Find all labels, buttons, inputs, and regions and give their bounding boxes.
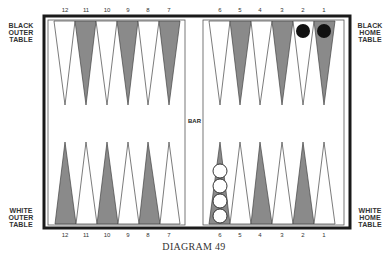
label-line: BLACK [352,22,388,29]
label-line: HOME [352,214,388,221]
point-number: 7 [162,7,176,13]
point-number: 5 [233,7,247,13]
white-checker[interactable] [213,209,227,223]
point-number: 9 [121,7,135,13]
point-number: 7 [162,232,176,238]
white-checker[interactable] [213,164,227,178]
label-line: TABLE [0,221,42,228]
black-checker[interactable] [317,24,331,38]
white-checker[interactable] [213,179,227,193]
bar-label: BAR [186,118,203,124]
point-number: 10 [100,7,114,13]
point-number: 8 [141,232,155,238]
white-outer-table-label: WHITE OUTER TABLE [0,207,42,228]
point-number: 8 [141,7,155,13]
point-number: 3 [275,7,289,13]
point-number: 1 [317,232,331,238]
point-number: 6 [213,232,227,238]
point-number: 12 [58,7,72,13]
point-number: 9 [121,232,135,238]
diagram-caption: DIAGRAM 49 [0,241,388,252]
point-number: 11 [79,7,93,13]
point-number: 6 [213,7,227,13]
point-number: 10 [100,232,114,238]
backgammon-board [0,0,388,257]
point-number: 11 [79,232,93,238]
black-outer-table-label: BLACK OUTER TABLE [0,22,42,43]
label-line: OUTER [0,29,42,36]
point-number: 4 [253,232,267,238]
label-line: TABLE [352,36,388,43]
white-home-table-label: WHITE HOME TABLE [352,207,388,228]
label-line: TABLE [0,36,42,43]
label-line: OUTER [0,214,42,221]
label-line: WHITE [352,207,388,214]
label-line: BLACK [0,22,42,29]
label-line: HOME [352,29,388,36]
black-checker[interactable] [296,24,310,38]
point-number: 1 [317,7,331,13]
white-checker[interactable] [213,194,227,208]
point-number: 5 [233,232,247,238]
point-number: 12 [58,232,72,238]
point-number: 4 [253,7,267,13]
point-number: 3 [275,232,289,238]
point-number: 2 [296,7,310,13]
label-line: WHITE [0,207,42,214]
point-number: 2 [296,232,310,238]
label-line: TABLE [352,221,388,228]
black-home-table-label: BLACK HOME TABLE [352,22,388,43]
